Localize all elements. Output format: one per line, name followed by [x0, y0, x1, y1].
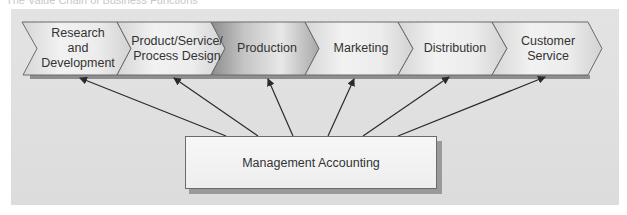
function-label-customer-service: Customer Service: [504, 22, 592, 75]
management-accounting-box: Management Accounting: [185, 136, 437, 189]
function-label-marketing: Marketing: [316, 22, 406, 75]
label-line: Development: [41, 56, 115, 71]
function-label-product-design: Product/Service/ Process Design: [128, 22, 226, 75]
label-line: Customer: [521, 34, 575, 49]
label-line: Process Design: [131, 49, 223, 64]
label-line: Marketing: [334, 41, 389, 56]
arrow-to-production: [268, 79, 293, 136]
label-line: Production: [237, 41, 297, 56]
arrow-to-distribution: [363, 77, 449, 136]
function-label-production: Production: [222, 22, 312, 75]
label-line: Product/Service/: [131, 34, 223, 49]
label-line: Research: [41, 26, 115, 41]
arrow-to-product-design: [174, 78, 258, 136]
label-line: Service: [521, 49, 575, 64]
function-label-distribution: Distribution: [410, 22, 500, 75]
arrow-to-marketing: [328, 79, 354, 136]
function-label-research-development: Research and Development: [37, 22, 119, 75]
label-line: Distribution: [424, 41, 487, 56]
arrow-to-customer-service: [398, 77, 545, 136]
arrow-to-research-development: [80, 78, 226, 136]
chevron-shadow: [30, 75, 590, 79]
label-line: and: [41, 41, 115, 56]
management-accounting-label: Management Accounting: [242, 156, 380, 170]
